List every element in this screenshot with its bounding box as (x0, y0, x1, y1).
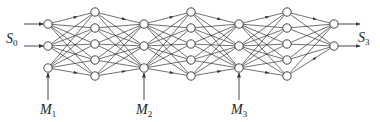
connection-line (239, 12, 287, 68)
neuron-node (91, 56, 99, 64)
neuron-node (140, 64, 148, 72)
neuron-node (44, 20, 52, 28)
connection-line (95, 44, 144, 46)
neuron-node (187, 24, 195, 32)
connection-line (48, 28, 95, 46)
connection-line (95, 68, 144, 76)
connection-line (191, 12, 239, 24)
connection-line (239, 24, 287, 28)
label-m3: M3 (231, 103, 247, 119)
network-graph (0, 0, 380, 122)
connection-line (48, 24, 95, 76)
neuron-node (91, 8, 99, 16)
connection-line (287, 46, 334, 60)
neuron-node (91, 40, 99, 48)
neuron-node (187, 40, 195, 48)
connection-line (95, 24, 144, 76)
neuron-node (283, 56, 291, 64)
connection-line (144, 68, 191, 76)
neuron-node (187, 56, 195, 64)
label-m1: M1 (40, 103, 56, 119)
connection-line (239, 44, 287, 46)
connection-line (287, 28, 334, 46)
neuron-node (283, 8, 291, 16)
connection-line (48, 24, 95, 28)
connection-line (95, 12, 144, 24)
connection-line (287, 12, 334, 24)
neuron-node (235, 42, 243, 50)
connection-line (191, 44, 239, 46)
neuron-node (283, 72, 291, 80)
connection-line (239, 68, 287, 76)
neuron-node (235, 64, 243, 72)
label-s3: S3 (358, 31, 370, 47)
neuron-node (44, 42, 52, 50)
neuron-node (91, 24, 99, 32)
connection-line (144, 12, 191, 68)
connection-line (191, 12, 239, 68)
connection-line (48, 12, 95, 68)
connection-line (95, 28, 144, 46)
neuron-node (91, 72, 99, 80)
connection-line (144, 44, 191, 46)
direction-arrow (315, 57, 316, 58)
neuron-node (140, 42, 148, 50)
neuron-node (140, 20, 148, 28)
connection-line (239, 12, 287, 24)
neuron-node (283, 24, 291, 32)
connection-line (191, 68, 239, 76)
connection-line (287, 24, 334, 28)
connection-line (287, 24, 334, 76)
connection-line (48, 68, 95, 76)
neuron-node (44, 64, 52, 72)
label-m2: M2 (136, 103, 152, 119)
neuron-node (187, 72, 195, 80)
neuron-node (330, 20, 338, 28)
connection-line (144, 12, 191, 24)
connection-line (95, 24, 144, 28)
connection-line (191, 28, 239, 46)
connection-line (239, 24, 287, 76)
connection-line (191, 24, 239, 28)
connection-line (144, 24, 191, 76)
connection-line (144, 24, 191, 28)
label-s0: S0 (6, 32, 18, 48)
connection-line (48, 12, 95, 24)
connection-line (239, 28, 287, 46)
neuron-node (187, 8, 195, 16)
connection-line (95, 12, 144, 68)
neuron-node (235, 20, 243, 28)
neural-network-diagram: S0 S3 M1 M2 M3 (0, 0, 380, 122)
connection-line (191, 24, 239, 76)
connection-line (144, 28, 191, 46)
connection-line (48, 44, 95, 46)
connection-line (287, 44, 334, 46)
neuron-node (330, 42, 338, 50)
neuron-node (283, 40, 291, 48)
